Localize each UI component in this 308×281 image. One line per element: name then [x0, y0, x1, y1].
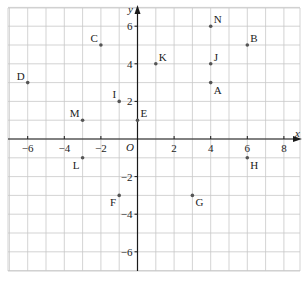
point-label: H: [250, 159, 258, 171]
origin-label: O: [126, 141, 134, 153]
x-tick-label: 2: [171, 142, 177, 154]
point-marker: [81, 156, 85, 160]
y-tick-label: 2: [127, 95, 133, 107]
point-label: L: [73, 159, 80, 171]
x-tick-label: −2: [95, 142, 107, 154]
point-label: A: [214, 84, 222, 96]
x-tick-label: −4: [58, 142, 70, 154]
point-label: J: [214, 51, 219, 63]
point-marker: [81, 118, 85, 122]
point-marker: [209, 62, 213, 66]
point-label: G: [195, 196, 203, 208]
point-label: C: [91, 32, 98, 44]
coordinate-plane: x y O −6−4−22468642−2−4−6 ABCDEFGHIJKLMN: [0, 0, 308, 281]
x-tick-label: −6: [22, 142, 34, 154]
point-label: I: [113, 88, 117, 100]
point-label: B: [250, 32, 257, 44]
point-label: M: [70, 107, 80, 119]
point-marker: [136, 118, 140, 122]
point-marker: [99, 43, 103, 47]
axes: x y O: [8, 3, 302, 271]
x-tick-label: 8: [281, 142, 287, 154]
y-tick-label: 4: [127, 58, 133, 70]
point-marker: [154, 62, 158, 66]
point-marker: [209, 24, 213, 28]
point-marker: [209, 81, 213, 85]
y-tick-label: −6: [121, 246, 133, 258]
point-marker: [117, 100, 121, 104]
point-marker: [117, 194, 121, 198]
point-label: E: [141, 107, 148, 119]
x-axis-label: x: [294, 127, 300, 139]
point-marker: [246, 156, 250, 160]
point-label: F: [110, 196, 116, 208]
point-i: I: [113, 88, 121, 103]
point-label: D: [17, 70, 25, 82]
x-tick-label: 4: [208, 142, 214, 154]
y-axis-label: y: [127, 3, 133, 15]
y-tick-label: −2: [121, 171, 133, 183]
point-marker: [246, 43, 250, 47]
x-tick-label: 6: [245, 142, 251, 154]
point-label: K: [159, 51, 167, 63]
y-tick-label: 6: [127, 20, 133, 32]
point-marker: [191, 194, 195, 198]
point-marker: [26, 81, 30, 85]
point-label: N: [214, 13, 222, 25]
y-tick-label: −4: [121, 208, 133, 220]
y-axis-arrow-icon: [135, 5, 141, 14]
